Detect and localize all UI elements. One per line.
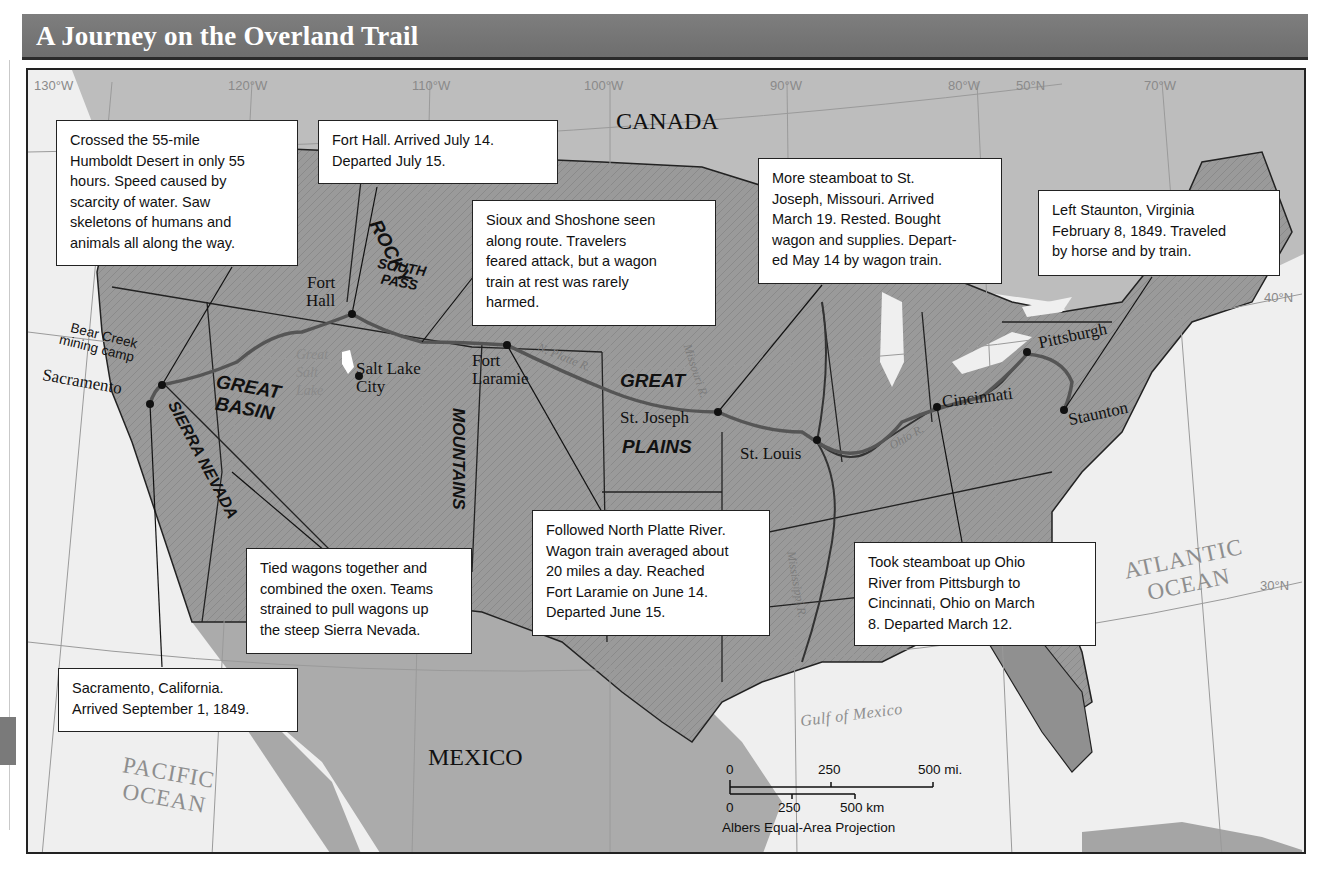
longitude-label: 90°W [770, 78, 802, 93]
scale-km-500: 500 km [840, 800, 884, 815]
projection-label: Albers Equal-Area Projection [722, 820, 895, 835]
scale-km-250: 250 [778, 800, 801, 815]
latitude-label: 50°N [1016, 78, 1045, 93]
callout-platte: Followed North Platte River. Wagon train… [532, 510, 770, 636]
callout-ohio: Took steamboat up Ohio River from Pittsb… [854, 542, 1096, 646]
country-label-canada: CANADA [616, 108, 719, 135]
callout-fort-hall: Fort Hall. Arrived July 14. Departed Jul… [318, 120, 558, 184]
callout-humboldt: Crossed the 55-mile Humboldt Desert in o… [56, 120, 298, 266]
longitude-label: 120°W [228, 78, 267, 93]
longitude-label: 80°W [948, 78, 980, 93]
place-label-salt-lake-city: Salt LakeCity [356, 360, 421, 396]
longitude-label: 130°W [34, 78, 73, 93]
place-label-fort-hall: FortHall [306, 274, 335, 310]
callout-sioux: Sioux and Shoshone seen along route. Tra… [472, 200, 716, 326]
lake-label-great-salt-lake: GreatSaltLake [296, 346, 328, 400]
scale-mi-0: 0 [726, 762, 734, 777]
callout-st-joseph: More steamboat to St. Joseph, Missouri. … [758, 158, 1002, 284]
longitude-label: 70°W [1144, 78, 1176, 93]
title-bar: A Journey on the Overland Trail [22, 14, 1308, 60]
region-label-mountains: MOUNTAINS [448, 408, 468, 510]
place-label-st-joseph: St. Joseph [620, 408, 689, 428]
callout-staunton: Left Staunton, Virginia February 8, 1849… [1038, 190, 1280, 276]
region-label-great-plains-1: GREAT [620, 370, 685, 392]
region-label-great-plains-2: PLAINS [622, 436, 692, 458]
latitude-label: 40°N [1264, 290, 1293, 305]
callout-sacramento: Sacramento, California. Arrived Septembe… [58, 668, 298, 732]
scale-mi-250: 250 [818, 762, 841, 777]
place-label-st-louis: St. Louis [740, 444, 801, 464]
callout-sierra: Tied wagons together and combined the ox… [246, 548, 472, 654]
country-label-mexico: MEXICO [428, 744, 523, 771]
longitude-label: 110°W [412, 78, 450, 93]
page-margin-rule [9, 60, 10, 830]
map-frame: 130°W 120°W 110°W 100°W 90°W 80°W 70°W 5… [26, 68, 1306, 854]
latitude-label: 30°N [1260, 578, 1289, 593]
page-edge-tab [0, 717, 16, 765]
map-title: A Journey on the Overland Trail [36, 21, 418, 52]
place-label-fort-laramie: FortLaramie [472, 352, 529, 388]
longitude-label: 100°W [584, 78, 623, 93]
scale-mi-500: 500 mi. [918, 762, 962, 777]
scale-km-0: 0 [726, 800, 734, 815]
